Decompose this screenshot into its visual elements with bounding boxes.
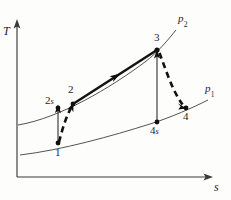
isentropic-processes-group [55,50,160,143]
state-label-1: 1 [55,147,61,158]
state-point-1 [56,141,61,146]
ts-diagram-canvas [0,0,231,200]
state-label-4s-subscript: s [156,126,159,136]
state-point-2 [71,102,76,107]
state-label-1-text: 1 [55,146,61,158]
actual-processes-group [59,53,187,142]
heat-addition-group [73,50,157,104]
process-3-4-dashed [160,53,183,105]
state-point-2s [56,106,61,111]
state-label-4: 4 [183,111,189,122]
state-label-4-text: 4 [183,110,189,122]
ts-diagram-figure: T s p2 p1 1 2s 2 3 4s 4 [0,0,231,200]
low-pressure-isobar-label-base: p [205,82,211,94]
state-label-2: 2 [68,84,74,95]
state-label-3-text: 3 [154,31,160,43]
state-point-3 [154,47,159,52]
temperature-axis-label: T [3,25,10,37]
state-points-group [56,47,189,145]
state-label-3: 3 [154,32,160,43]
isobar-curves-group [18,30,208,155]
low-pressure-isobar-label: p1 [205,83,214,97]
high-pressure-isobar-label: p2 [178,13,187,27]
entropy-axis-label: s [214,181,219,193]
high-pressure-isobar-label-subscript: 2 [184,20,188,29]
high-pressure-isobar-curve [18,30,176,125]
state-label-2s: 2s [45,95,54,106]
state-label-2-text: 2 [68,83,74,95]
low-pressure-isobar-label-subscript: 1 [211,90,215,99]
high-pressure-isobar-label-base: p [178,12,184,24]
state-label-4s: 4s [150,125,159,136]
state-label-2s-subscript: s [51,96,54,106]
axes-group [14,19,213,180]
